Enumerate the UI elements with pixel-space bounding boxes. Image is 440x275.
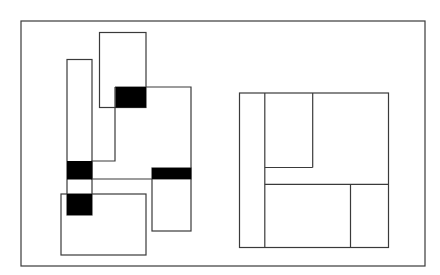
filled-rect-black-bar-right [152, 168, 191, 179]
filled-rect-black-bottom-left [67, 194, 92, 215]
diagram-canvas [0, 0, 440, 275]
background [0, 0, 440, 275]
filled-rect-black-top [116, 87, 147, 108]
filled-rect-black-mid-left [67, 161, 92, 180]
